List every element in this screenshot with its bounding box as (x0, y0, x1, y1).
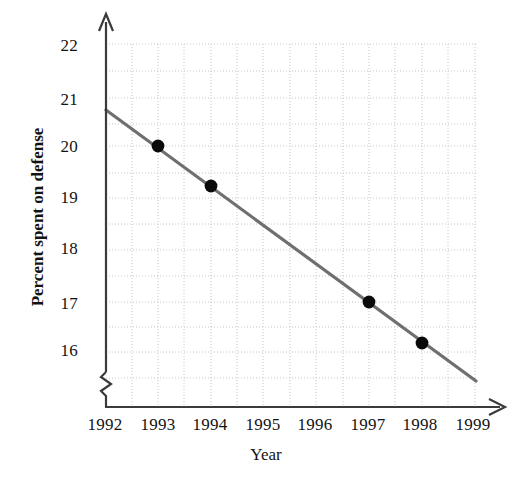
x-tick-label: 1996 (288, 415, 342, 435)
x-tick-label: 1995 (236, 415, 290, 435)
y-tick-label: 16 (38, 341, 78, 361)
x-tick-label: 1994 (183, 415, 237, 435)
chart-container: 22 21 20 19 18 17 16 1992 1993 1994 1995… (0, 0, 532, 486)
x-tick-label: 1999 (446, 415, 500, 435)
chart-canvas (0, 0, 532, 486)
x-tick-label: 1992 (78, 415, 132, 435)
data-point (363, 296, 376, 309)
data-point (205, 180, 218, 193)
data-point (416, 337, 429, 350)
x-tick-label: 1997 (341, 415, 395, 435)
data-point (152, 140, 165, 153)
x-axis-title: Year (0, 445, 532, 465)
y-axis-title: Percent spent on defense (28, 97, 48, 337)
x-axis (105, 399, 505, 415)
y-axis (99, 14, 113, 407)
grid-lines (106, 44, 476, 406)
y-tick-label: 22 (38, 36, 78, 56)
x-tick-label: 1998 (393, 415, 447, 435)
x-tick-label: 1993 (131, 415, 185, 435)
